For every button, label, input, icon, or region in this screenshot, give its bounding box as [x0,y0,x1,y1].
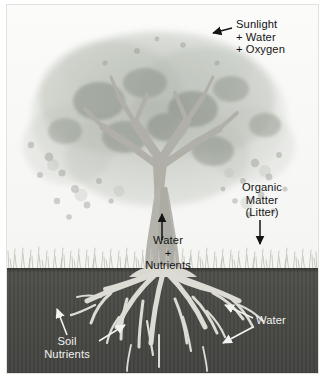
soil-nutrients-arrow-2 [57,309,67,335]
organic-matter-label: Organic Matter (Litter) [231,181,293,219]
soil-nutrients-label: Soil Nutrients [34,335,100,360]
water-nutrients-label: Water + Nutrients [135,234,201,272]
sunlight-arrow [213,28,232,33]
soil-nutrients-line-2: Nutrients [34,348,100,361]
water-nutrients-line-3: Nutrients [135,259,201,272]
water-roots-label: Water [256,314,286,327]
water-nutrients-line-1: Water [135,234,201,247]
water-nutrients-line-2: + [135,247,201,260]
organic-line-1: Organic [231,181,293,194]
organic-line-2: Matter [231,194,293,207]
sunlight-line-2: + Water [236,31,285,44]
sunlight-label: Sunlight + Water + Oxygen [236,18,285,56]
tree-nutrient-cycle-figure: Sunlight + Water + Oxygen Organic Matter… [0,0,334,391]
soil-nutrients-arrow-1 [99,325,125,341]
water-roots-arrow-2 [223,327,253,343]
illustration-scene: Sunlight + Water + Oxygen Organic Matter… [7,5,318,373]
organic-line-3: (Litter) [231,206,293,219]
soil-nutrients-line-1: Soil [34,335,100,348]
annotation-layer: Sunlight + Water + Oxygen Organic Matter… [7,5,318,373]
water-roots-arrow-1 [225,305,253,318]
sunlight-line-1: Sunlight [236,18,285,31]
sunlight-line-3: + Oxygen [236,43,285,56]
